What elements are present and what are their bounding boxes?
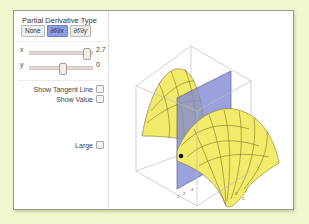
show-tangent-line-row: Show Tangent Line	[34, 85, 104, 93]
y-slider[interactable]	[29, 66, 93, 70]
surface-plot-graphic: 2 2 4 0 2	[109, 11, 293, 209]
dfdy-button[interactable]: ∂f/∂y	[70, 25, 91, 37]
y-slider-row: y 0	[20, 61, 106, 72]
large-checkbox[interactable]	[96, 141, 104, 149]
divider	[18, 80, 104, 81]
show-tangent-line-checkbox[interactable]	[96, 85, 104, 93]
svg-text:2: 2	[177, 194, 180, 199]
evaluation-point	[179, 154, 184, 159]
x-slider[interactable]	[29, 51, 93, 55]
large-label: Large	[75, 142, 93, 149]
partial-derivative-type-label: Partial Derivative Type	[22, 16, 97, 25]
y-slider-value: 0	[96, 61, 100, 68]
none-button[interactable]: None	[21, 25, 45, 37]
x-slider-label: x	[20, 46, 24, 53]
show-value-label: Show Value	[56, 96, 93, 103]
y-slider-label: y	[20, 61, 24, 68]
demonstration-frame: Partial Derivative Type None ∂f/∂x ∂f/∂y…	[13, 10, 294, 210]
control-panel: Partial Derivative Type None ∂f/∂x ∂f/∂y…	[14, 11, 109, 209]
show-value-checkbox[interactable]	[96, 95, 104, 103]
x-slider-value: 2.7	[96, 46, 106, 53]
derivative-type-setter: None ∂f/∂x ∂f/∂y	[21, 25, 91, 37]
svg-text:4: 4	[191, 187, 194, 192]
y-slider-thumb[interactable]	[59, 63, 67, 75]
3d-plot[interactable]: 2 2 4 0 2	[109, 11, 293, 209]
show-tangent-line-label: Show Tangent Line	[34, 86, 93, 93]
x-slider-row: x 2.7	[20, 46, 106, 57]
svg-text:2: 2	[242, 196, 245, 201]
svg-text:2: 2	[183, 191, 186, 196]
x-slider-thumb[interactable]	[83, 48, 91, 60]
show-value-row: Show Value	[56, 95, 104, 103]
divider	[18, 41, 104, 42]
large-row: Large	[75, 141, 104, 149]
dfdx-button[interactable]: ∂f/∂x	[47, 25, 68, 37]
